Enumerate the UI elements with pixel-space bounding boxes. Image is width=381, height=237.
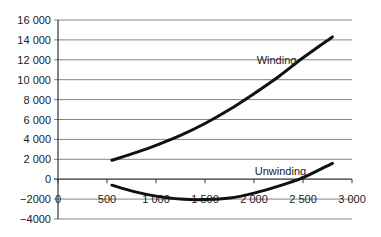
y-tick-label: 14 000 [17,34,51,46]
y-tick-label: 10 000 [17,74,51,86]
x-tick-label: 500 [98,193,116,205]
series-line-winding [112,37,333,160]
series-label-unwinding: Unwinding [255,165,306,177]
y-tick-label: 4 000 [23,133,51,145]
y-tick-label: 8 000 [23,94,51,106]
x-axis: 05001 0001 5002 0002 5003 000 [55,179,366,205]
x-tick-label: 0 [55,193,61,205]
series-labels: WindingUnwinding [255,54,306,177]
y-tick-label: 16 000 [17,14,51,26]
y-tick-label: −4000 [20,213,51,225]
y-tick-label: 2 000 [23,153,51,165]
y-axis: −4000−200002 0004 0006 0008 00010 00012 … [17,14,58,225]
gridlines [54,20,352,219]
y-tick-label: 6 000 [23,114,51,126]
y-tick-label: 0 [45,173,51,185]
x-tick-label: 3 000 [338,193,366,205]
chart: −4000−200002 0004 0006 0008 00010 00012 … [0,0,381,237]
y-tick-label: −2000 [20,193,51,205]
x-tick-label: 2 500 [289,193,317,205]
y-tick-label: 12 000 [17,54,51,66]
series-label-winding: Winding [257,54,297,66]
